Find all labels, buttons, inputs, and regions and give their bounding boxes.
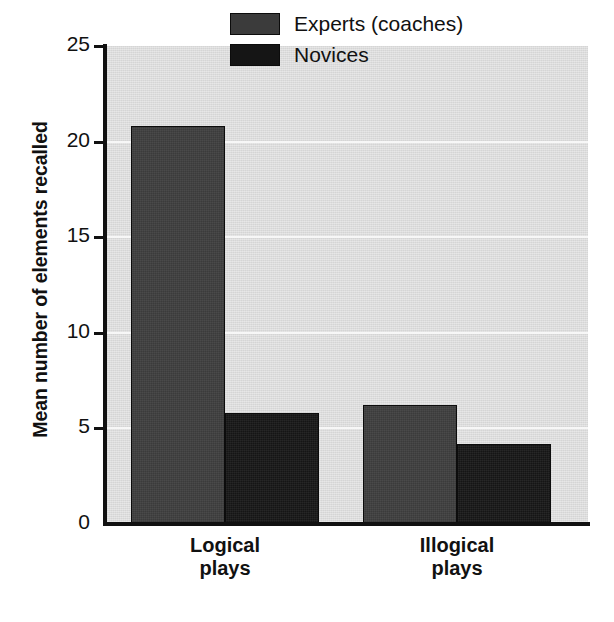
- y-axis-tick-mark: [94, 45, 107, 48]
- x-axis-line: [103, 522, 590, 526]
- plot-area: [107, 46, 588, 524]
- legend-item: Novices: [230, 43, 463, 67]
- x-axis-category-label: Logicalplays: [110, 534, 340, 580]
- bar-chart-figure: Mean number of elements recalled 2520151…: [0, 0, 614, 622]
- x-axis-category-label-line: Illogical: [342, 534, 572, 557]
- bar: [363, 405, 457, 524]
- y-axis-tick-label: 0: [30, 510, 90, 534]
- legend-item: Experts (coaches): [230, 12, 463, 36]
- bar-texture: [364, 406, 456, 523]
- x-axis-category-label-line: plays: [110, 557, 340, 580]
- y-axis-tick-mark: [94, 236, 107, 239]
- x-axis-category-label-line: plays: [342, 557, 572, 580]
- legend-label: Experts (coaches): [294, 12, 463, 36]
- legend-label: Novices: [294, 43, 369, 67]
- x-axis-category-label-line: Logical: [110, 534, 340, 557]
- bar-texture: [132, 127, 224, 523]
- legend-swatch: [230, 44, 280, 66]
- y-axis-tick-label: 20: [30, 128, 90, 152]
- x-axis-category-label: Illogicalplays: [342, 534, 572, 580]
- y-axis-tick-mark: [94, 332, 107, 335]
- bar: [131, 126, 225, 524]
- y-axis-tick-label: 15: [30, 223, 90, 247]
- y-axis-tick-mark: [94, 141, 107, 144]
- y-axis-tick-label: 10: [30, 319, 90, 343]
- legend: Experts (coaches)Novices: [230, 12, 463, 67]
- bar-texture: [226, 414, 318, 523]
- y-axis-tick-label: 5: [30, 414, 90, 438]
- bar-texture: [458, 445, 550, 523]
- bar: [225, 413, 319, 524]
- y-axis-tick-labels: 2520151050: [20, 0, 90, 622]
- y-axis-line: [103, 44, 107, 526]
- legend-swatch: [230, 13, 280, 35]
- y-axis-tick-label: 25: [30, 32, 90, 56]
- bar: [457, 444, 551, 524]
- y-axis-tick-mark: [94, 427, 107, 430]
